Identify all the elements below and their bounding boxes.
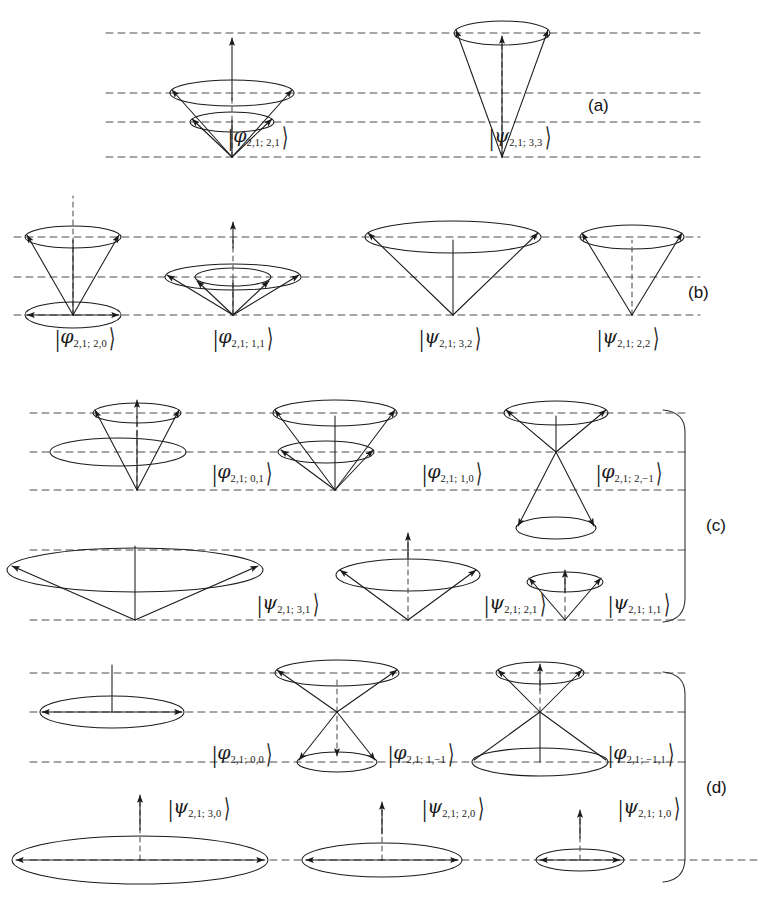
state-label-a2: |ψ2,1; 3,3⟩ xyxy=(489,125,553,151)
state-symbol: φ xyxy=(218,325,231,347)
state-subscript: 2,1; 1,0 xyxy=(441,473,474,484)
ket-angle: ⟩ xyxy=(652,326,658,352)
state-subscript: 2,1; 1,−1 xyxy=(407,754,447,765)
cone-d6 xyxy=(536,810,624,871)
state-subscript: 2,1; 3,0 xyxy=(188,808,221,819)
state-symbol: ψ xyxy=(262,591,277,613)
state-symbol: φ xyxy=(427,460,440,482)
ket-angle: ⟩ xyxy=(266,461,272,487)
state-subscript: 2,1; 2,1 xyxy=(504,604,537,615)
state-symbol: ψ xyxy=(602,325,617,347)
state-label-d4: |ψ2,1; 3,0⟩ xyxy=(168,796,232,822)
state-symbol: φ xyxy=(601,460,614,482)
state-symbol: φ xyxy=(60,325,73,347)
state-label-c6: |ψ2,1; 1,1⟩ xyxy=(608,592,672,618)
state-label-b1: |φ2,1; 2,0⟩ xyxy=(55,326,117,352)
cone-c4 xyxy=(7,546,263,620)
ket-angle: ⟩ xyxy=(266,742,272,768)
cone-d1 xyxy=(40,665,184,728)
panel-label-b: (b) xyxy=(688,283,709,303)
state-label-d2: |φ2,1; 1,−1⟩ xyxy=(388,742,456,768)
panel-b-gridlines xyxy=(14,237,700,315)
panel-a-gridlines xyxy=(106,33,700,157)
state-label-c2: |φ2,1; 1,0⟩ xyxy=(422,461,484,487)
state-symbol: φ xyxy=(217,460,230,482)
state-subscript: 2,1; 0,0 xyxy=(231,754,264,765)
state-label-d1: |φ2,1; 0,0⟩ xyxy=(212,742,274,768)
cone-b1 xyxy=(25,196,121,328)
panel-label-d: (d) xyxy=(706,778,727,798)
cone-d3 xyxy=(472,662,608,776)
ket-angle: ⟩ xyxy=(109,326,115,352)
state-label-c5: |ψ2,1; 2,1⟩ xyxy=(484,592,548,618)
state-subscript: 2,1; 2,0 xyxy=(74,338,107,349)
ket-angle: ⟩ xyxy=(668,742,674,768)
state-symbol: φ xyxy=(233,124,246,146)
state-label-b2: |φ2,1; 1,1⟩ xyxy=(213,326,275,352)
ket-angle: ⟩ xyxy=(673,796,679,822)
state-subscript: 2,1; 2,−1 xyxy=(615,473,655,484)
state-symbol: ψ xyxy=(489,591,504,613)
state-label-d6: |ψ2,1; 1,0⟩ xyxy=(618,796,682,822)
state-label-a1: |φ2,1; 2,1⟩ xyxy=(228,125,290,151)
state-symbol: ψ xyxy=(424,325,439,347)
state-subscript: 2,1; 1,0 xyxy=(638,808,671,819)
state-symbol: ψ xyxy=(173,795,188,817)
state-subscript: 2,1; 2,0 xyxy=(442,808,475,819)
cone-b4 xyxy=(580,225,684,315)
figure-canvas: (a) (b) (c) (d) |φ2,1; 2,1⟩ |ψ2,1; 3,3⟩ … xyxy=(0,0,771,914)
cone-c3 xyxy=(504,401,608,539)
state-symbol: φ xyxy=(393,741,406,763)
state-label-c3: |φ2,1; 2,−1⟩ xyxy=(596,461,664,487)
state-symbol: ψ xyxy=(427,795,442,817)
cone-c5 xyxy=(336,533,480,620)
state-subscript: 2,1; 2,2 xyxy=(617,338,650,349)
state-subscript: 2,1; −1,1 xyxy=(627,754,667,765)
ket-angle: ⟩ xyxy=(539,592,545,618)
ket-angle: ⟩ xyxy=(474,326,480,352)
cone-b2 xyxy=(165,222,301,315)
state-symbol: ψ xyxy=(623,795,638,817)
state-subscript: 2,1; 2,1 xyxy=(247,137,280,148)
ket-angle: ⟩ xyxy=(312,592,318,618)
ket-angle: ⟩ xyxy=(223,796,229,822)
ket-angle: ⟩ xyxy=(663,592,669,618)
state-subscript: 2,1; 1,1 xyxy=(232,338,265,349)
ket-angle: ⟩ xyxy=(476,461,482,487)
state-subscript: 2,1; 0,1 xyxy=(231,473,264,484)
ket-angle: ⟩ xyxy=(477,796,483,822)
state-label-c1: |φ2,1; 0,1⟩ xyxy=(212,461,274,487)
state-label-d5: |ψ2,1; 2,0⟩ xyxy=(422,796,486,822)
state-symbol: ψ xyxy=(613,591,628,613)
state-symbol: ψ xyxy=(494,124,509,146)
state-label-d3: |φ2,1; −1,1⟩ xyxy=(608,742,676,768)
state-label-b4: |ψ2,1; 2,2⟩ xyxy=(597,326,661,352)
state-subscript: 2,1; 3,3 xyxy=(509,137,542,148)
state-label-c4: |ψ2,1; 3,1⟩ xyxy=(257,592,321,618)
state-subscript: 2,1; 3,1 xyxy=(277,604,310,615)
ket-angle: ⟩ xyxy=(656,461,662,487)
state-symbol: φ xyxy=(217,741,230,763)
state-subscript: 2,1; 1,1 xyxy=(628,604,661,615)
state-subscript: 2,1; 3,2 xyxy=(439,338,472,349)
state-label-b3: |ψ2,1; 3,2⟩ xyxy=(419,326,483,352)
panel-label-c: (c) xyxy=(706,516,726,536)
panel-label-a: (a) xyxy=(588,96,609,116)
cone-b3 xyxy=(365,221,541,315)
brace-d xyxy=(663,672,685,882)
ket-angle: ⟩ xyxy=(448,742,454,768)
ket-angle: ⟩ xyxy=(267,326,273,352)
vector-cone-diagram xyxy=(0,0,771,914)
state-symbol: φ xyxy=(613,741,626,763)
ket-angle: ⟩ xyxy=(282,125,288,151)
cone-d2 xyxy=(275,660,399,772)
ket-angle: ⟩ xyxy=(544,125,550,151)
